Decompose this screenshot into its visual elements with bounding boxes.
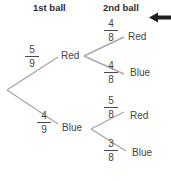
column-header-second-ball: 2nd ball <box>103 2 139 13</box>
probability-red-red: 4 8 <box>104 18 118 43</box>
fraction-denominator: 8 <box>104 73 118 85</box>
fraction-denominator: 8 <box>104 31 118 43</box>
probability-tree-diagram: 1st ball 2nd ball 5 9 Red 4 9 Blue 4 8 R… <box>0 0 171 181</box>
outcome-blue-red: Red <box>130 110 148 122</box>
fraction-numerator: 5 <box>25 44 39 57</box>
outcome-blue-blue: Blue <box>132 147 152 159</box>
fraction-numerator: 5 <box>104 95 118 108</box>
fraction-denominator: 8 <box>104 108 118 120</box>
column-header-first-ball: 1st ball <box>33 2 66 13</box>
fraction-denominator: 8 <box>104 151 118 163</box>
probability-first-blue: 4 9 <box>37 110 51 135</box>
fraction-numerator: 4 <box>104 18 118 31</box>
fraction-numerator: 3 <box>104 138 118 151</box>
probability-blue-blue: 3 8 <box>104 138 118 163</box>
outcome-first-red: Red <box>61 50 79 62</box>
fraction-denominator: 9 <box>25 57 39 69</box>
fraction-numerator: 4 <box>37 110 51 123</box>
left-arrow-icon <box>149 13 171 23</box>
outcome-first-blue: Blue <box>62 122 82 134</box>
fraction-denominator: 9 <box>37 123 51 135</box>
probability-red-blue: 4 8 <box>104 60 118 85</box>
probability-blue-red: 5 8 <box>104 95 118 120</box>
outcome-red-blue: Blue <box>130 67 150 79</box>
probability-first-red: 5 9 <box>25 44 39 69</box>
fraction-numerator: 4 <box>104 60 118 73</box>
outcome-red-red: Red <box>128 31 146 43</box>
